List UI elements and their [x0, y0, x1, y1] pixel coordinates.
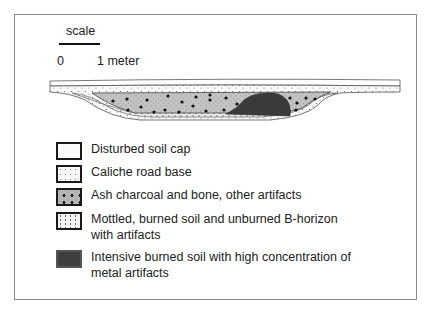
legend-label: Disturbed soil cap	[91, 142, 190, 158]
legend-item-intensive-burned-soil: Intensive burned soil with high concentr…	[56, 250, 351, 281]
legend-item-ash-charcoal-bone: Ash charcoal and bone, other artifacts	[56, 188, 302, 206]
legend-label: Ash charcoal and bone, other artifacts	[91, 188, 302, 204]
soil-cross-section	[0, 0, 429, 130]
swatch-dark-fill-icon	[56, 250, 82, 268]
legend-item-caliche-road-base: Caliche road base	[56, 165, 192, 183]
legend-label: Intensive burned soil with high concentr…	[91, 250, 351, 281]
swatch-blank-icon	[56, 142, 82, 160]
legend-label: Mottled, burned soil and unburned B-hori…	[91, 212, 356, 243]
swatch-light-stipple-icon	[56, 165, 82, 183]
legend-item-mottled-burned-soil: Mottled, burned soil and unburned B-hori…	[56, 212, 356, 243]
swatch-gray-dots-icon	[56, 188, 82, 206]
legend-label: Caliche road base	[91, 165, 192, 181]
legend-item-disturbed-soil-cap: Disturbed soil cap	[56, 142, 190, 160]
swatch-stipple-icon	[56, 212, 82, 230]
